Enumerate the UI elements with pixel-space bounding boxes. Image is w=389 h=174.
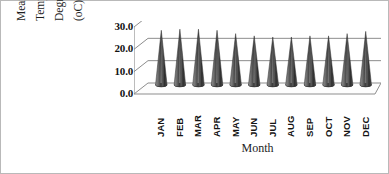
x-axis-tick-label: JUL [267,123,278,137]
x-axis-tick-label: MAR [192,123,203,137]
x-axis-tick-label: AUG [285,123,296,137]
x-axis-tick-sep: SEP [303,99,317,139]
x-axis-tick-label: OCT [323,123,334,137]
x-axis-tick-label: JUN [248,123,259,137]
y-axis-title-line-3: Degrees Centigrade [51,9,70,141]
x-axis-tick-labels: JANFEBMARAPRMAYJUNJULAUGSEPOCTNOVDEC [134,99,381,141]
y-axis-title-text-4: (oC) [72,2,84,21]
y-axis-title-line-4: (oC) [70,9,89,141]
x-axis-tick-jan: JAN [154,99,168,139]
y-axis-title-text-1: Mean Maximum [15,2,27,21]
x-axis-tick-oct: OCT [322,99,336,139]
plot-area [134,21,381,97]
x-axis-tick-nov: NOV [340,99,354,139]
x-axis-tick-jun: JUN [247,99,261,139]
x-axis-tick-feb: FEB [173,99,187,139]
x-axis-tick-label: DEC [360,123,371,137]
x-axis-tick-may: MAY [229,99,243,139]
x-axis-tick-label: SEP [304,123,315,137]
x-axis-tick-jul: JUL [266,99,280,139]
y-axis-title-text-3: Degrees Centigrade [53,2,65,21]
y-axis-tick-20-0: 20.0 [99,42,133,54]
y-axis-tick-labels: 30.020.010.00.0 [97,1,133,174]
x-axis-tick-label: JAN [155,123,166,137]
x-axis-tick-label: MAY [230,123,241,137]
x-axis-tick-label: FEB [174,123,185,137]
x-axis-title: Month [134,141,381,156]
plot-3d-canvas [134,21,381,97]
y-axis-title: Mean Maximum Temperature Degrees Centigr… [11,9,97,141]
y-axis-tick-30-0: 30.0 [99,20,133,32]
x-axis-tick-mar: MAR [191,99,205,139]
chart-frame: Mean Maximum Temperature Degrees Centigr… [0,0,389,174]
y-axis-title-line-2: Temperature [32,9,51,141]
x-axis-tick-label: APR [211,123,222,137]
x-axis-tick-apr: APR [210,99,224,139]
x-axis-tick-dec: DEC [359,99,373,139]
y-axis-title-line-1: Mean Maximum [13,9,32,141]
y-axis-title-text-2: Temperature [34,2,46,21]
x-axis-tick-aug: AUG [284,99,298,139]
y-axis-tick-10-0: 10.0 [99,65,133,77]
y-axis-tick-0-0: 0.0 [99,87,133,99]
x-axis-tick-label: NOV [341,123,352,137]
